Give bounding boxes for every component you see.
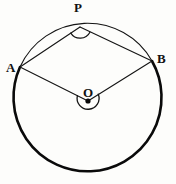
segment-pb bbox=[80, 27, 152, 61]
geometry-diagram: P A B O bbox=[0, 0, 176, 184]
vertex-label-p: P bbox=[74, 1, 82, 14]
angle-arc-at-p bbox=[71, 32, 90, 38]
circle-major-arc bbox=[14, 61, 162, 171]
vertex-label-o: O bbox=[83, 86, 93, 99]
segment-ob bbox=[88, 61, 152, 101]
vertex-label-b: B bbox=[157, 52, 166, 65]
vertex-label-a: A bbox=[6, 61, 15, 74]
